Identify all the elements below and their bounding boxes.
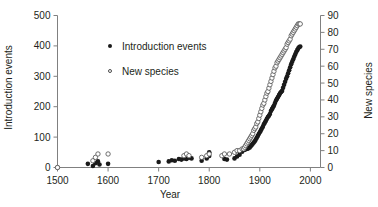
svg-text:30: 30 — [328, 111, 340, 122]
svg-text:300: 300 — [34, 71, 51, 82]
svg-text:60: 60 — [328, 61, 340, 72]
svg-text:1700: 1700 — [148, 175, 171, 186]
legend-item-new-species: New species — [104, 63, 207, 79]
y-axis-left-title: Introduction events — [0, 0, 16, 175]
svg-text:1800: 1800 — [198, 175, 221, 186]
svg-text:1500: 1500 — [46, 175, 69, 186]
legend-item-introduction-events: Introduction events — [104, 38, 207, 54]
filled-circle-icon — [104, 44, 116, 48]
svg-text:1900: 1900 — [249, 175, 272, 186]
open-circle-icon — [104, 69, 116, 73]
svg-text:1600: 1600 — [97, 175, 120, 186]
svg-text:2000: 2000 — [299, 175, 322, 186]
plot-canvas: 0100200300400500010203040506070809015001… — [0, 0, 378, 207]
svg-text:80: 80 — [328, 27, 340, 38]
y-axis-left-title-text: Introduction events — [3, 45, 14, 130]
svg-text:10: 10 — [328, 145, 340, 156]
svg-text:0: 0 — [45, 162, 51, 173]
y-axis-right-title: New species — [360, 5, 376, 175]
legend-label-new-species: New species — [116, 66, 179, 77]
svg-text:50: 50 — [328, 78, 340, 89]
y-axis-right-title-text: New species — [363, 62, 374, 119]
svg-text:40: 40 — [328, 94, 340, 105]
svg-text:100: 100 — [34, 132, 51, 143]
svg-text:90: 90 — [328, 10, 340, 21]
svg-text:500: 500 — [34, 10, 51, 21]
svg-text:200: 200 — [34, 101, 51, 112]
svg-text:20: 20 — [328, 128, 340, 139]
x-axis-title: Year — [0, 189, 340, 200]
legend-label-introduction-events: Introduction events — [116, 41, 207, 52]
svg-text:400: 400 — [34, 40, 51, 51]
svg-text:0: 0 — [328, 162, 334, 173]
chart-figure: 0100200300400500010203040506070809015001… — [0, 0, 378, 207]
chart-legend: Introduction events New species — [104, 38, 207, 88]
svg-text:70: 70 — [328, 44, 340, 55]
